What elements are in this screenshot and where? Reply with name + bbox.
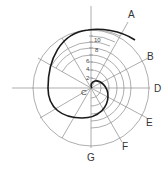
ray-label-b: B xyxy=(147,52,154,62)
scale-label-4: 4 xyxy=(86,66,89,72)
ray-label-f: F xyxy=(122,142,128,152)
ray-label-e: E xyxy=(146,118,153,128)
spiral-diagram xyxy=(0,0,168,170)
ray-label-d: D xyxy=(154,84,161,94)
center-label-c: C xyxy=(81,88,87,98)
scale-label-10: 10 xyxy=(94,37,101,43)
concentric-arcs xyxy=(52,30,131,128)
ray-upper-left xyxy=(38,58,91,88)
ray-label-a: A xyxy=(128,10,135,20)
guide-lines xyxy=(12,6,150,148)
scale-label-8: 8 xyxy=(95,47,98,53)
scale-label-2: 2 xyxy=(86,75,89,81)
ray-label-g: G xyxy=(87,153,95,163)
scale-label-6: 6 xyxy=(86,58,89,64)
